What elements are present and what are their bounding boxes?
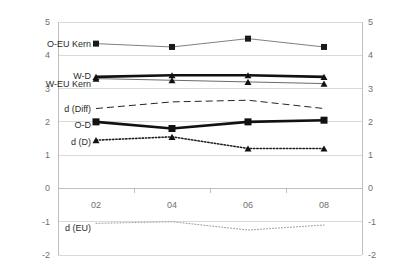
series-line	[96, 79, 324, 84]
x-axis-tick-label: 06	[233, 200, 263, 210]
series-label-o-d: O-D	[75, 120, 92, 130]
series-line	[96, 137, 324, 149]
series-label-w-eu-kern: W-EU Kern	[46, 79, 91, 89]
series-marker-square	[93, 118, 100, 125]
series-layer	[93, 36, 328, 230]
y-axis-right-tick-label: 5	[368, 17, 386, 27]
x-axis-tick-label: 02	[81, 200, 111, 210]
x-axis-ticks	[134, 188, 286, 193]
series-marker-square	[245, 36, 251, 42]
x-axis-tick-label: 08	[309, 200, 339, 210]
y-axis-left-tick-label: 4	[32, 50, 50, 60]
y-axis-left-tick-label: -1	[32, 217, 50, 227]
series-marker-triangle	[93, 137, 100, 143]
chart-container: 543210-1-2 543210-1-2 02040608 O-EU Kern…	[0, 0, 397, 267]
series-label-o-eu-kern: O-EU Kern	[47, 39, 91, 49]
y-axis-right-tick-label: 4	[368, 50, 386, 60]
x-axis-tick-label: 04	[157, 200, 187, 210]
series-marker-square	[321, 44, 327, 50]
series-line	[96, 100, 324, 108]
y-axis-right-tick-label: -1	[368, 217, 386, 227]
series-marker-square	[169, 125, 176, 132]
series-line	[96, 75, 324, 77]
gridlines	[58, 22, 362, 255]
y-axis-right-tick-label: 3	[368, 84, 386, 94]
series-marker-square	[245, 118, 252, 125]
series-label-d-d: d (D)	[71, 137, 91, 147]
y-axis-right-tick-label: 0	[368, 183, 386, 193]
y-axis-left-tick-label: 5	[32, 17, 50, 27]
series-marker-square	[169, 44, 175, 50]
axis-lines	[58, 22, 362, 255]
series-line	[96, 222, 324, 230]
series-line	[96, 39, 324, 47]
y-axis-right-tick-label: 2	[368, 117, 386, 127]
y-axis-left-tick-label: 0	[32, 183, 50, 193]
y-axis-left-tick-label: 1	[32, 150, 50, 160]
y-axis-left-tick-label: -2	[32, 250, 50, 260]
series-marker-square	[93, 41, 99, 47]
y-axis-right-tick-label: 1	[368, 150, 386, 160]
series-label-d-diff: d (Diff)	[64, 104, 91, 114]
y-axis-right-tick-label: -2	[368, 250, 386, 260]
y-axis-left-tick-label: 2	[32, 117, 50, 127]
series-marker-square	[321, 117, 328, 124]
series-label-d-eu: d (EU)	[65, 223, 91, 233]
